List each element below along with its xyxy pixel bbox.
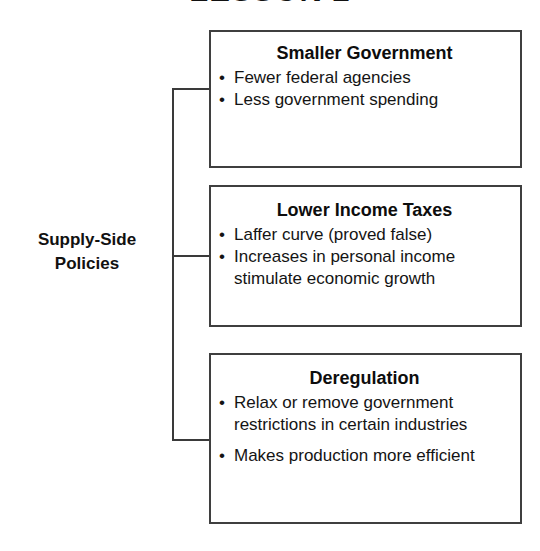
list-item: Relax or remove government restrictions … (217, 392, 512, 436)
policy-box-bullet-list: Laffer curve (proved false) Increases in… (217, 224, 512, 290)
policy-box-deregulation: Deregulation Relax or remove government … (209, 353, 522, 524)
policy-box-bullet-list: Relax or remove government restrictions … (217, 392, 512, 467)
list-item: Makes production more efficient (217, 445, 512, 467)
list-item: Increases in personal income stimulate e… (217, 246, 512, 290)
policy-box-title: Lower Income Taxes (217, 199, 512, 222)
bottom-cutoff-text-clipped: ..................... (8, 540, 532, 551)
bottom-cutoff-text: ..................... (8, 540, 532, 551)
bracket-branch-3 (172, 439, 210, 441)
list-item: Laffer curve (proved false) (217, 224, 512, 246)
policy-box-title: Deregulation (217, 367, 512, 390)
policy-box-smaller-government: Smaller Government Fewer federal agencie… (209, 30, 522, 168)
diagram-page: LESSON 2 Supply-Side Policies Smaller Go… (0, 0, 540, 551)
bracket-branch-2 (172, 255, 210, 257)
policy-box-lower-income-taxes: Lower Income Taxes Laffer curve (proved … (209, 185, 522, 327)
root-label-line-1: Supply-Side (8, 228, 166, 252)
root-label-line-2: Policies (8, 252, 166, 276)
list-item: Less government spending (217, 89, 512, 111)
policy-box-bullet-list: Fewer federal agencies Less government s… (217, 67, 512, 111)
policy-box-title: Smaller Government (217, 42, 512, 65)
root-label: Supply-Side Policies (8, 228, 166, 276)
list-item: Fewer federal agencies (217, 67, 512, 89)
bracket-trunk-line (172, 88, 174, 441)
lesson-title: LESSON 2 (0, 0, 540, 8)
lesson-title-clipped: LESSON 2 (0, 0, 540, 8)
bracket-branch-1 (172, 88, 210, 90)
